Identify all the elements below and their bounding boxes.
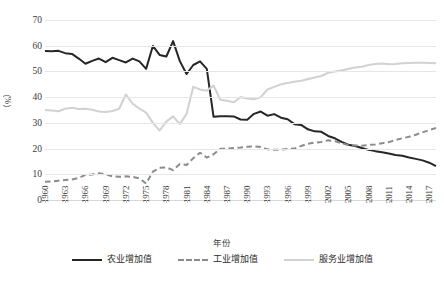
line-chart: （%） 010203040506070 19601963196619691972…	[0, 0, 444, 281]
x-axis-tick-mark	[267, 200, 268, 203]
x-axis-title: 年份	[0, 236, 444, 248]
x-axis-tick-mark	[106, 200, 107, 203]
legend-swatch-icon	[178, 259, 208, 261]
legend-label: 服务业增加值	[319, 255, 373, 264]
x-axis-tick-mark	[45, 200, 46, 203]
x-axis-tick-mark	[207, 200, 208, 203]
x-axis-tick-mark	[227, 200, 228, 203]
x-axis-tick-mark	[429, 200, 430, 203]
x-axis-tick-mark	[348, 200, 349, 203]
x-axis-tick-mark	[166, 200, 167, 203]
legend-swatch-icon	[284, 259, 314, 261]
x-axis-tick-mark	[389, 200, 390, 203]
x-axis-tick-mark	[85, 200, 86, 203]
legend-item[interactable]: 服务业增加值	[284, 255, 373, 264]
x-axis-tick-mark	[308, 200, 309, 203]
legend-label: 工业增加值	[213, 255, 258, 264]
x-axis-tick-mark	[126, 200, 127, 203]
x-axis-tick-mark	[369, 200, 370, 203]
x-axis-tick-mark	[65, 200, 66, 203]
x-axis-tick-mark	[409, 200, 410, 203]
legend-item[interactable]: 工业增加值	[178, 255, 258, 264]
legend-swatch-icon	[72, 259, 102, 261]
chart-legend: 农业增加值工业增加值服务业增加值	[0, 255, 444, 264]
x-axis-tick-mark	[146, 200, 147, 203]
legend-item[interactable]: 农业增加值	[72, 255, 152, 264]
x-axis-tick-mark	[187, 200, 188, 203]
x-axis-tick-mark	[288, 200, 289, 203]
x-axis-tick-mark	[328, 200, 329, 203]
x-axis-tick-mark	[247, 200, 248, 203]
legend-label: 农业增加值	[107, 255, 152, 264]
